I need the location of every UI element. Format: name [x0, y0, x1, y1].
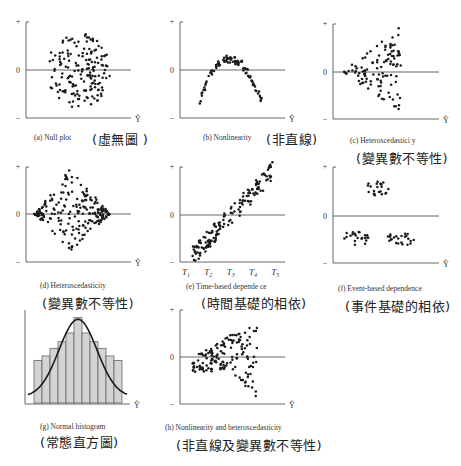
svg-text:0: 0: [170, 211, 174, 220]
svg-text:0: 0: [323, 68, 327, 77]
svg-text:Ŷ: Ŷ: [289, 114, 295, 124]
svg-text:0: 0: [170, 353, 174, 362]
panel-a: +0–Ŷ: [15, 17, 141, 124]
svg-text:0: 0: [16, 210, 20, 219]
panel-h: +0–Ŷ: [169, 305, 295, 410]
caption-d-zh: (變異數不等性): [42, 293, 134, 312]
svg-text:+: +: [16, 162, 21, 171]
caption-f-zh: (事件基礎的相依): [345, 296, 451, 315]
histogram-bar: [34, 360, 42, 403]
caption-d: (d) Heteroscedasticity: [40, 281, 106, 290]
panel-g: Ŷ: [25, 310, 140, 410]
histogram-bar: [66, 333, 74, 403]
caption-a: (a) Null plot: [34, 133, 71, 142]
svg-text:0: 0: [16, 66, 20, 75]
svg-text:Ŷ: Ŷ: [135, 258, 141, 268]
histogram-bar: [114, 360, 122, 403]
figure-canvas: +0–Ŷ+0–Ŷ+0–Ŷ+0–Ŷ+0–T1T2T3T4T5+0–ŶŶ+0–Ŷ: [0, 0, 461, 466]
svg-text:T1: T1: [182, 267, 190, 278]
svg-text:–: –: [322, 114, 328, 123]
svg-text:–: –: [15, 257, 21, 266]
histogram-bar: [74, 318, 82, 403]
svg-text:0: 0: [170, 66, 174, 75]
svg-text:+: +: [16, 17, 21, 26]
caption-h: (h) Nonlinearity and heteroscedasticity: [165, 423, 282, 432]
svg-text:+: +: [170, 162, 175, 171]
histogram-bar: [82, 333, 90, 403]
svg-text:Ŷ: Ŷ: [289, 400, 295, 410]
svg-text:+: +: [170, 17, 175, 26]
svg-text:T4: T4: [249, 267, 257, 278]
svg-text:+: +: [323, 162, 328, 171]
caption-a-zh: (虛無圖 ): [92, 129, 148, 148]
svg-text:0: 0: [323, 212, 327, 221]
svg-text:Ŷ: Ŷ: [134, 400, 140, 410]
caption-f: (f) Event-based dependence: [338, 284, 422, 293]
caption-c-zh: (變異數不等性): [356, 148, 448, 167]
svg-text:+: +: [170, 305, 175, 314]
svg-text:+: +: [323, 19, 328, 28]
caption-b-zh: (非直線): [266, 129, 318, 148]
svg-text:Ŷ: Ŷ: [135, 114, 141, 124]
caption-c: (c) Heteroscedastici y: [350, 136, 415, 145]
svg-text:T5: T5: [271, 267, 279, 278]
svg-text:–: –: [169, 113, 175, 122]
caption-e: (e) Time-based depende ce: [186, 282, 267, 291]
svg-text:–: –: [169, 399, 175, 408]
svg-text:T2: T2: [204, 267, 212, 278]
panel-f: +0–Ŷ: [322, 162, 449, 269]
panel-d: +0–Ŷ: [15, 162, 141, 268]
panel-c: +0–Ŷ: [322, 19, 449, 125]
svg-text:Ŷ: Ŷ: [443, 259, 449, 269]
caption-g-zh: (常態直方圖): [40, 432, 119, 451]
svg-text:T3: T3: [227, 267, 235, 278]
caption-e-zh: (時間基礎的相依): [201, 293, 307, 312]
caption-h-zh: (非直線及變異數不等性): [176, 435, 322, 454]
caption-g: (g) Normal histogram: [40, 422, 105, 431]
svg-text:–: –: [15, 113, 21, 122]
panel-e: +0–T1T2T3T4T5: [169, 161, 285, 278]
panel-b: +0–Ŷ: [169, 17, 295, 124]
caption-b: (b) Nonlinearity: [203, 133, 252, 142]
svg-text:Ŷ: Ŷ: [443, 115, 449, 125]
svg-text:–: –: [169, 257, 175, 266]
svg-text:–: –: [322, 258, 328, 267]
